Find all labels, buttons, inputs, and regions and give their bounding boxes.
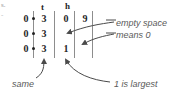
cell-left-zero: 0 xyxy=(21,13,31,24)
annotation-empty-space-line2: means 0 xyxy=(116,30,151,40)
cell-tens-value: 3 xyxy=(39,43,49,54)
cell-tens-value: 3 xyxy=(39,13,49,24)
column-rule-between-h-and-nine xyxy=(74,11,75,58)
annotation-empty-space-line1: empty space xyxy=(116,18,167,28)
spine-dot xyxy=(32,47,35,50)
cell-hundreds-value: 1 xyxy=(61,43,71,54)
column-rule-between-t-and-h xyxy=(54,11,55,58)
cell-hundreds-value: 0 xyxy=(61,13,71,24)
cell-tens-value: 3 xyxy=(39,28,49,39)
page-fragment-dash: - xyxy=(1,11,3,19)
page-fragment-top-left: s. xyxy=(1,1,5,9)
column-header-tens: t xyxy=(41,2,44,12)
spine-dot xyxy=(32,17,35,20)
cell-extra-value: 9 xyxy=(80,13,90,24)
annotation-same: same xyxy=(12,79,34,89)
cell-left-zero: 0 xyxy=(21,28,31,39)
column-header-hundreds: h xyxy=(65,1,70,11)
column-rule-right xyxy=(92,11,93,58)
annotation-largest: 1 is largest xyxy=(114,79,158,89)
cell-left-zero: 0 xyxy=(21,43,31,54)
diagram-canvas: s. - t h 0 3 0 9 0 3 0 3 1 xyxy=(0,0,192,100)
spine-dot xyxy=(32,32,35,35)
